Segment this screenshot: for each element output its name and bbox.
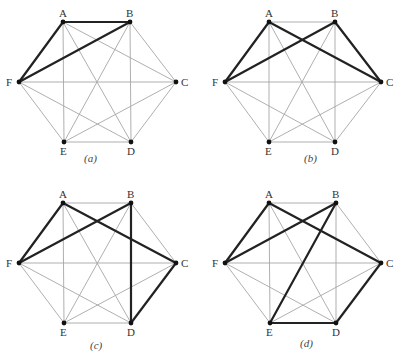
vertex-e — [62, 321, 67, 326]
bold-edge-af — [225, 22, 269, 82]
vertex-label-e: E — [60, 145, 67, 157]
vertex-label-d: D — [332, 326, 340, 338]
vertex-a — [61, 201, 66, 206]
vertex-label-b: B — [127, 188, 134, 200]
vertex-a — [267, 20, 272, 25]
vertex-f — [223, 261, 228, 266]
vertex-c — [174, 80, 179, 85]
bold-edge-cd — [131, 263, 176, 323]
edge-cd — [131, 82, 176, 142]
edge-ef — [225, 82, 269, 142]
edge-ef — [19, 263, 64, 323]
vertex-label-b: B — [331, 7, 338, 19]
vertex-label-f: F — [6, 257, 12, 269]
vertex-d — [334, 321, 339, 326]
vertex-a — [61, 20, 66, 25]
bold-edge-af — [19, 22, 63, 82]
vertex-d — [333, 140, 338, 145]
vertex-c — [379, 261, 384, 266]
vertex-c — [174, 261, 179, 266]
vertex-label-e: E — [265, 145, 272, 157]
vertex-b — [128, 20, 133, 25]
vertex-label-d: D — [127, 145, 135, 157]
vertex-label-d: D — [331, 145, 339, 157]
vertex-c — [379, 80, 384, 85]
panel-a: ABCDEF(a) — [6, 7, 188, 165]
vertex-e — [268, 321, 273, 326]
vertex-label-a: A — [265, 7, 273, 19]
vertex-label-a: A — [59, 188, 67, 200]
vertex-label-b: B — [332, 188, 339, 200]
vertex-b — [129, 201, 134, 206]
complete-graph-k6-figure: ABCDEF(a) ABCDEF(b) ABCDEF(c) ABCDEF(d) — [0, 0, 401, 362]
vertex-e — [267, 140, 272, 145]
vertex-label-b: B — [126, 7, 133, 19]
panel-caption: (d) — [300, 337, 313, 350]
panel-caption: (a) — [84, 152, 97, 165]
vertex-label-c: C — [386, 257, 393, 269]
edge-bc — [131, 203, 176, 263]
panel-caption: (b) — [304, 152, 317, 165]
vertex-f — [223, 80, 228, 85]
edge-ef — [19, 82, 64, 142]
vertex-d — [129, 140, 134, 145]
bold-edge-bc — [335, 22, 381, 82]
edge-ef — [225, 263, 270, 323]
vertex-label-d: D — [127, 326, 135, 338]
panel-caption: (c) — [90, 339, 103, 352]
bold-edge-af — [19, 203, 63, 263]
vertex-label-e: E — [60, 326, 67, 338]
panel-d: ABCDEF(d) — [212, 188, 393, 350]
edge-bc — [336, 203, 381, 263]
vertex-label-c: C — [386, 76, 393, 88]
vertex-f — [17, 261, 22, 266]
bold-edge-cd — [336, 263, 381, 323]
vertex-f — [17, 80, 22, 85]
vertex-b — [333, 20, 338, 25]
edge-cd — [335, 82, 381, 142]
vertex-label-f: F — [212, 257, 218, 269]
vertex-label-e: E — [266, 326, 273, 338]
vertex-a — [267, 201, 272, 206]
panel-c: ABCDEF(c) — [6, 188, 188, 352]
bold-edge-af — [225, 203, 269, 263]
panel-b: ABCDEF(b) — [212, 7, 393, 165]
vertex-label-f: F — [6, 76, 12, 88]
vertex-label-f: F — [212, 76, 218, 88]
vertex-d — [129, 321, 134, 326]
vertex-label-c: C — [181, 76, 188, 88]
vertex-b — [334, 201, 339, 206]
vertex-label-a: A — [59, 7, 67, 19]
vertex-e — [62, 140, 67, 145]
vertex-label-a: A — [265, 188, 273, 200]
edge-bc — [130, 22, 176, 82]
vertex-label-c: C — [181, 257, 188, 269]
